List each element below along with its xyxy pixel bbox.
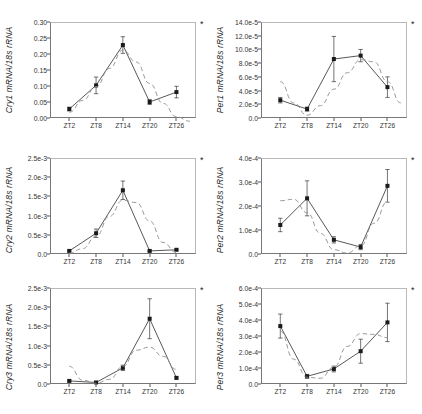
x-tick-mark bbox=[307, 384, 308, 387]
x-tick-mark bbox=[149, 118, 150, 121]
data-point-marker bbox=[305, 196, 309, 200]
x-tick-label: ZT8 bbox=[301, 122, 313, 129]
chart-panel-per2: Per2 mRNA/18s rRNA0.01.0e-42.0e-43.0e-44… bbox=[211, 140, 422, 280]
x-tick-label: ZT8 bbox=[90, 388, 102, 395]
x-tick-mark bbox=[96, 384, 97, 387]
x-tick-label: ZT14 bbox=[115, 258, 130, 265]
fitted-curve bbox=[280, 199, 387, 253]
x-tick-label: ZT14 bbox=[115, 388, 130, 395]
x-tick-mark bbox=[387, 384, 388, 387]
data-point-marker bbox=[278, 324, 282, 328]
chart-panel-cry2: Cry2 mRNA/18s rRNA0.00.5e-31.0e-31.5e-32… bbox=[0, 140, 211, 280]
x-tick-mark bbox=[176, 254, 177, 257]
data-point-marker bbox=[278, 223, 282, 227]
series-layer bbox=[0, 0, 211, 140]
x-tick-mark bbox=[307, 254, 308, 257]
x-tick-mark bbox=[360, 118, 361, 121]
x-tick-label: ZT26 bbox=[380, 258, 395, 265]
chart-panel-per3: Per3 mRNA/18s rRNA0.01.0e-42.0e-43.0e-44… bbox=[211, 280, 422, 414]
x-tick-label: ZT14 bbox=[326, 388, 341, 395]
x-tick-label: ZT26 bbox=[169, 122, 184, 129]
x-tick-label: ZT8 bbox=[90, 122, 102, 129]
x-tick-mark bbox=[360, 384, 361, 387]
x-tick-label: ZT8 bbox=[90, 258, 102, 265]
x-tick-label: ZT20 bbox=[142, 388, 157, 395]
x-tick-label: ZT14 bbox=[115, 122, 130, 129]
data-point-marker bbox=[148, 249, 152, 253]
chart-panel-per1: Per1 mRNA/18s rRNA0.02.0e-54.0e-56.0e-58… bbox=[211, 0, 422, 140]
x-tick-label: ZT26 bbox=[169, 258, 184, 265]
fitted-curve bbox=[69, 50, 190, 121]
data-point-marker bbox=[67, 249, 71, 253]
x-tick-mark bbox=[69, 254, 70, 257]
x-tick-label: ZT2 bbox=[274, 122, 286, 129]
x-tick-mark bbox=[387, 118, 388, 121]
data-point-marker bbox=[305, 107, 309, 111]
data-point-marker bbox=[332, 57, 336, 61]
x-tick-label: ZT26 bbox=[169, 388, 184, 395]
x-tick-label: ZT2 bbox=[63, 388, 75, 395]
x-tick-mark bbox=[122, 254, 123, 257]
x-tick-label: ZT8 bbox=[301, 258, 313, 265]
x-tick-label: ZT20 bbox=[142, 122, 157, 129]
data-point-marker bbox=[174, 90, 178, 94]
data-point-marker bbox=[359, 245, 363, 249]
x-tick-mark bbox=[149, 254, 150, 257]
x-tick-label: ZT2 bbox=[63, 258, 75, 265]
x-tick-label: ZT20 bbox=[142, 258, 157, 265]
data-point-marker bbox=[174, 376, 178, 380]
data-point-marker bbox=[385, 184, 389, 188]
data-point-marker bbox=[174, 248, 178, 252]
x-tick-mark bbox=[176, 118, 177, 121]
x-tick-mark bbox=[96, 118, 97, 121]
x-tick-mark bbox=[96, 254, 97, 257]
chart-panel-cry1: Cry1 mRNA/18s rRNA0.000.050.100.150.200.… bbox=[0, 0, 211, 140]
x-tick-mark bbox=[122, 384, 123, 387]
data-point-marker bbox=[94, 231, 98, 235]
x-tick-mark bbox=[333, 384, 334, 387]
x-tick-mark bbox=[280, 254, 281, 257]
series-layer bbox=[211, 0, 422, 140]
x-tick-label: ZT2 bbox=[274, 388, 286, 395]
fitted-curve bbox=[69, 200, 176, 253]
data-point-marker bbox=[278, 98, 282, 102]
data-line bbox=[69, 319, 176, 383]
x-tick-mark bbox=[176, 384, 177, 387]
x-tick-mark bbox=[387, 254, 388, 257]
x-tick-label: ZT20 bbox=[353, 258, 368, 265]
x-tick-label: ZT26 bbox=[380, 122, 395, 129]
data-point-marker bbox=[148, 317, 152, 321]
x-tick-mark bbox=[69, 118, 70, 121]
data-point-marker bbox=[385, 320, 389, 324]
x-tick-label: ZT8 bbox=[301, 388, 313, 395]
x-tick-mark bbox=[149, 384, 150, 387]
x-tick-label: ZT20 bbox=[353, 122, 368, 129]
x-tick-mark bbox=[360, 254, 361, 257]
x-tick-mark bbox=[333, 118, 334, 121]
data-point-marker bbox=[359, 54, 363, 58]
x-tick-label: ZT2 bbox=[63, 122, 75, 129]
figure-panel-grid: Cry1 mRNA/18s rRNA0.000.050.100.150.200.… bbox=[0, 0, 422, 414]
data-point-marker bbox=[359, 349, 363, 353]
data-point-marker bbox=[121, 43, 125, 47]
data-point-marker bbox=[148, 100, 152, 104]
data-point-marker bbox=[121, 188, 125, 192]
fitted-curve bbox=[280, 60, 401, 116]
x-tick-mark bbox=[333, 254, 334, 257]
data-point-marker bbox=[67, 107, 71, 111]
x-tick-label: ZT14 bbox=[326, 122, 341, 129]
x-tick-mark bbox=[122, 118, 123, 121]
data-line bbox=[69, 45, 176, 109]
x-tick-label: ZT2 bbox=[274, 258, 286, 265]
x-tick-mark bbox=[69, 384, 70, 387]
x-tick-label: ZT20 bbox=[353, 388, 368, 395]
data-point-marker bbox=[332, 238, 336, 242]
x-tick-mark bbox=[307, 118, 308, 121]
data-point-marker bbox=[67, 379, 71, 383]
x-tick-mark bbox=[280, 384, 281, 387]
x-tick-label: ZT14 bbox=[326, 258, 341, 265]
x-tick-mark bbox=[280, 118, 281, 121]
data-point-marker bbox=[385, 85, 389, 89]
x-tick-label: ZT26 bbox=[380, 388, 395, 395]
chart-panel-cry3: Cry3 mRNA/18s rRNA0.00.5e-31.0e-31.5e-32… bbox=[0, 280, 211, 414]
